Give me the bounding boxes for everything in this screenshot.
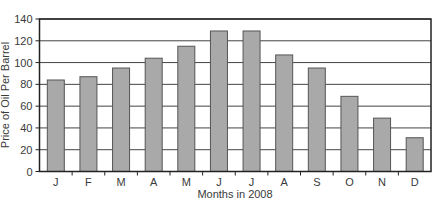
- x-tick-label: A: [150, 176, 158, 188]
- x-tick-label: J: [53, 176, 59, 188]
- y-tick-label: 0: [26, 166, 32, 178]
- bar: [308, 68, 325, 171]
- x-tick-label: F: [85, 176, 92, 188]
- x-tick-label: S: [313, 176, 320, 188]
- y-tick-label: 80: [20, 78, 32, 90]
- y-tick-label: 140: [14, 13, 32, 25]
- bar: [145, 58, 162, 171]
- x-tick-label: A: [281, 176, 289, 188]
- bar: [178, 46, 195, 171]
- y-tick-label: 40: [20, 122, 32, 134]
- y-axis-label: Price of Oil Per Barrel: [0, 42, 11, 148]
- x-tick-label: M: [116, 176, 125, 188]
- x-tick-label: J: [216, 176, 222, 188]
- bar: [243, 31, 260, 172]
- bar: [80, 77, 97, 172]
- chart-canvas: 020406080100120140 JFMAMJJASOND Months i…: [0, 0, 436, 200]
- x-axis-ticks: JFMAMJJASOND: [53, 172, 419, 188]
- x-tick-label: O: [345, 176, 354, 188]
- y-tick-label: 20: [20, 144, 32, 156]
- bars: [47, 31, 423, 172]
- y-tick-label: 120: [14, 35, 32, 47]
- y-tick-label: 60: [20, 100, 32, 112]
- y-tick-label: 100: [14, 57, 32, 69]
- bar: [406, 138, 423, 172]
- gridlines: [40, 19, 432, 172]
- y-axis-ticks: 020406080100120140: [14, 13, 39, 178]
- x-tick-label: D: [411, 176, 419, 188]
- x-tick-label: N: [378, 176, 386, 188]
- bar: [210, 31, 227, 172]
- oil-price-bar-chart: 020406080100120140 JFMAMJJASOND Months i…: [0, 0, 436, 200]
- plot-frame: [40, 19, 432, 172]
- bar: [341, 96, 358, 171]
- x-tick-label: M: [182, 176, 191, 188]
- bar: [113, 68, 130, 171]
- bar: [47, 80, 64, 172]
- bar: [276, 55, 293, 172]
- x-tick-label: J: [249, 176, 255, 188]
- x-axis-label: Months in 2008: [197, 188, 272, 200]
- bar: [374, 118, 391, 171]
